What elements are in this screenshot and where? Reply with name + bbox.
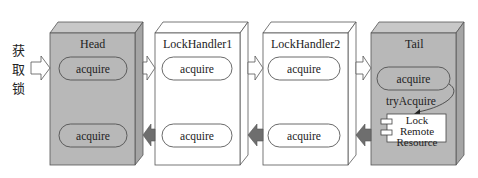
tail-acquire: acquire xyxy=(377,72,450,86)
lockhandler2-acquire-bottom: acquire xyxy=(268,129,340,143)
lockhandler2-title: LockHandler2 xyxy=(271,37,340,51)
lockhandler1-title: LockHandler1 xyxy=(163,37,232,51)
tail-title: Tail xyxy=(405,37,424,51)
entry-label: 获 取 锁 xyxy=(10,41,26,98)
lockhandler2-acquire-top: acquire xyxy=(268,62,340,76)
lock-remote-resource: Lock Remote Resource xyxy=(389,115,445,148)
forward-arrow-icon xyxy=(143,56,155,80)
forward-arrow-icon xyxy=(248,56,263,80)
backward-arrow-icon xyxy=(356,124,371,146)
diagram-canvas xyxy=(0,0,478,178)
try-acquire-label: tryAcquire xyxy=(386,94,436,108)
lockhandler1-acquire-top: acquire xyxy=(162,62,232,76)
lockhandler1-acquire-bottom: acquire xyxy=(162,129,232,143)
head-acquire-bottom: acquire xyxy=(59,129,127,143)
entry-arrow-icon xyxy=(31,56,50,80)
head-title: Head xyxy=(80,37,105,51)
head-acquire-top: acquire xyxy=(59,62,127,76)
forward-arrow-icon xyxy=(356,56,371,80)
backward-arrow-icon xyxy=(143,124,155,146)
backward-arrow-icon xyxy=(248,124,263,146)
